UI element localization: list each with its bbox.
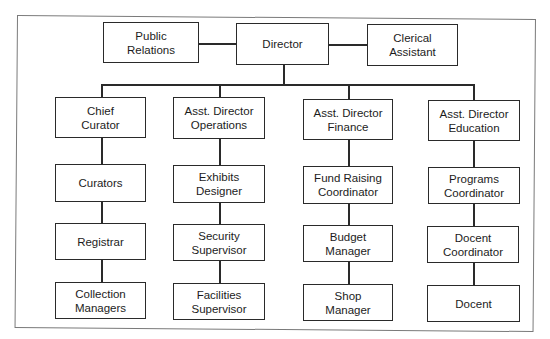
connector-spine-col2 [219,139,221,285]
node-docent: Docent [427,285,520,322]
node-programs-coordinator: Programs Coordinator [428,167,520,204]
node-asst-director-operations: Asst. Director Operations [173,97,265,139]
node-docent-coordinator: Docent Coordinator [427,226,519,263]
node-chief-curator: Chief Curator [55,97,146,138]
node-director: Director [236,23,329,65]
connector-drop-col2 [219,84,221,98]
node-exhibits-designer: Exhibits Designer [173,165,265,203]
connector-pr-director [199,43,237,45]
connector-spine-col1 [101,138,103,283]
node-registrar: Registrar [55,223,146,260]
connector-drop-col4 [473,84,475,100]
node-asst-director-finance: Asst. Director Finance [303,99,393,140]
connector-director-down [283,65,285,85]
connector-spine-col3 [348,140,350,286]
node-shop-manager: Shop Manager [303,284,393,321]
node-security-supervisor: Security Supervisor [173,224,265,261]
node-public-relations: Public Relations [103,22,199,63]
node-asst-director-education: Asst. Director Education [428,100,520,141]
node-clerical-assistant: Clerical Assistant [367,24,458,66]
connector-drop-col1 [101,84,103,98]
node-curators: Curators [55,164,146,202]
node-fund-raising-coordinator: Fund Raising Coordinator [303,166,393,204]
connector-spine-col4 [473,141,475,286]
connector-bus [101,84,474,86]
connector-drop-col3 [348,84,350,99]
node-budget-manager: Budget Manager [303,225,393,262]
node-collection-managers: Collection Managers [55,282,146,319]
connector-director-clerical [329,44,367,46]
node-facilities-supervisor: Facilities Supervisor [173,283,265,320]
